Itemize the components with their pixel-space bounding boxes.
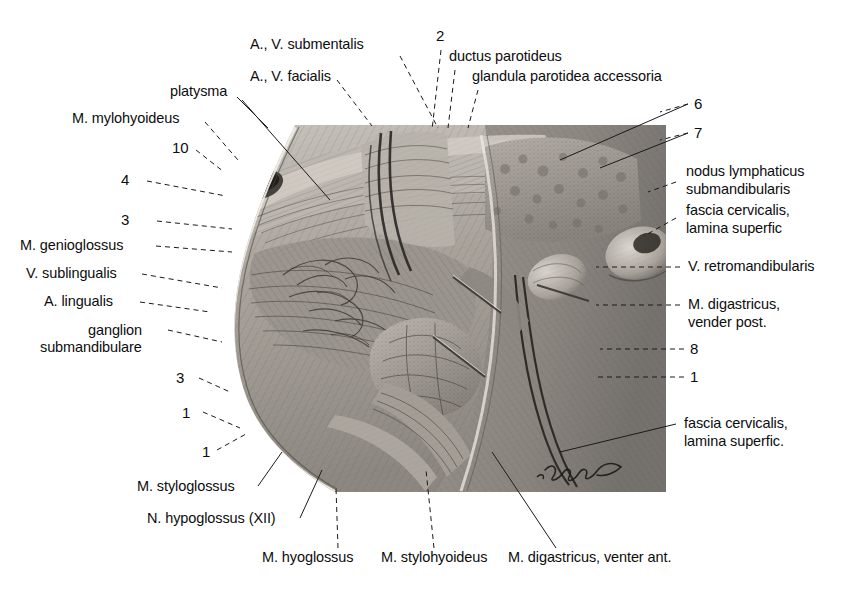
callout-6: 6 <box>694 96 702 112</box>
label-a-v-submentalis: A., V. submentalis <box>250 36 364 53</box>
callout-4: 3 <box>176 370 184 386</box>
label-a-lingualis: A. lingualis <box>44 293 113 310</box>
callout-1-left: 1 <box>202 444 210 460</box>
label-v-sublingualis: V. sublingualis <box>26 265 117 282</box>
label-m-styloglossus: M. styloglossus <box>137 478 235 495</box>
label-nodus-lymphaticus: nodus lymphaticus <box>686 163 804 180</box>
label-ganglion: ganglion <box>88 322 142 339</box>
label-submandibularis: submandibularis <box>686 181 790 198</box>
label-lamina-superfic-upper: lamina superfic <box>686 220 782 237</box>
leader-a-v-submentalis <box>400 56 438 128</box>
label-m-stylohyoideus: M. stylohyoideus <box>381 549 487 566</box>
label-vender-post: vender post. <box>688 314 767 331</box>
callout-5: 4 <box>121 172 129 188</box>
label-fascia-cervicalis-upper: fascia cervicalis, <box>686 202 790 219</box>
callout-9: 10 <box>172 140 189 156</box>
leader-glandula-parotidea <box>468 90 478 128</box>
label-m-hyoglossus: M. hyoglossus <box>262 549 353 566</box>
dissection-illustration <box>185 125 666 492</box>
illustration-body <box>185 125 666 492</box>
callout-2: 2 <box>436 28 444 44</box>
label-m-digastricus-ant: M. digastricus, venter ant. <box>508 549 671 566</box>
callout-1-right: 1 <box>690 369 698 385</box>
leader-a-v-facialis <box>337 80 372 126</box>
callout-7: 7 <box>694 125 702 141</box>
leader-platysma <box>237 97 268 128</box>
leader-callout-2 <box>432 50 441 130</box>
label-platysma: platysma <box>170 83 227 100</box>
label-lamina-superfic-lower: lamina superfic. <box>684 433 784 450</box>
label-v-retromandibularis: V. retromandibularis <box>688 258 814 275</box>
illustration-svg <box>185 125 666 492</box>
leader-ductus-parotideus <box>448 70 455 128</box>
label-n-hypoglossus: N. hypoglossus (XII) <box>147 510 276 527</box>
callout-3: 1 <box>182 405 190 421</box>
leader-m-hyoglossus <box>336 488 338 548</box>
label-ductus-parotideus: ductus parotideus <box>449 48 562 65</box>
leader-callout-6 <box>660 104 688 112</box>
callout-10: 3 <box>121 212 129 228</box>
label-glandula-parotidea-accessoria: glandula parotidea accessoria <box>472 68 662 85</box>
label-a-v-facialis: A., V. facialis <box>250 68 331 85</box>
label-m-mylohyoideus: M. mylohyoideus <box>72 110 179 127</box>
callout-8: 8 <box>690 341 698 357</box>
label-m-digastricus-post: M. digastricus, <box>688 296 780 313</box>
label-fascia-cervicalis-lower: fascia cervicalis, <box>684 415 788 432</box>
anatomical-figure: A., V. submentalis A., V. facialis platy… <box>0 0 856 598</box>
label-submandibulare: submandibulare <box>40 339 142 356</box>
label-m-genioglossus: M. genioglossus <box>20 237 123 254</box>
